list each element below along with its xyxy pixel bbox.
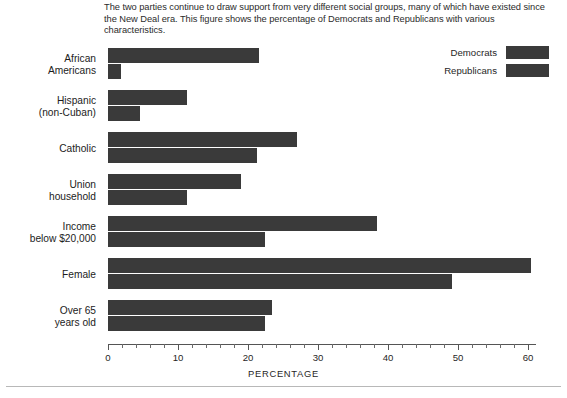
- bar-republicans-4: [108, 232, 265, 247]
- x-tick-major: [528, 344, 529, 350]
- x-tick-label: 20: [243, 352, 254, 363]
- bar-democrats-4: [108, 216, 377, 231]
- bar-group: Hispanic(non-Cuban): [0, 86, 567, 128]
- x-tick-major: [458, 344, 459, 350]
- x-tick-minor: [122, 344, 123, 348]
- x-tick-minor: [402, 344, 403, 348]
- category-label-line: below $20,000: [30, 233, 96, 245]
- x-tick-minor: [486, 344, 487, 348]
- category-label-line: household: [49, 191, 96, 203]
- category-label-line: Income: [63, 221, 96, 233]
- x-tick-minor: [444, 344, 445, 348]
- x-tick-label: 10: [173, 352, 184, 363]
- category-label-line: Union: [69, 179, 96, 191]
- figure-caption: The two parties continue to draw support…: [104, 2, 554, 37]
- x-tick-minor: [290, 344, 291, 348]
- bar-democrats-0: [108, 48, 259, 63]
- x-tick-minor: [304, 344, 305, 348]
- category-label: AfricanAmericans: [0, 44, 96, 86]
- x-tick-major: [388, 344, 389, 350]
- x-tick-minor: [472, 344, 473, 348]
- x-tick-label: 40: [383, 352, 394, 363]
- x-tick-label: 60: [523, 352, 534, 363]
- x-tick-minor: [192, 344, 193, 348]
- bar-republicans-0: [108, 64, 121, 79]
- category-label-line: Female: [62, 269, 96, 281]
- x-tick-minor: [514, 344, 515, 348]
- category-label-line: years old: [55, 317, 96, 329]
- x-tick-minor: [150, 344, 151, 348]
- x-tick-minor: [164, 344, 165, 348]
- x-tick-major: [248, 344, 249, 350]
- x-tick-major: [318, 344, 319, 350]
- x-tick-minor: [276, 344, 277, 348]
- category-label-line: African: [64, 53, 96, 65]
- category-label-line: Catholic: [59, 143, 96, 155]
- bar-republicans-1: [108, 106, 140, 121]
- x-tick-minor: [346, 344, 347, 348]
- x-tick-minor: [234, 344, 235, 348]
- category-label: Catholic: [0, 128, 96, 170]
- x-tick-label: 50: [453, 352, 464, 363]
- bottom-divider: [6, 386, 561, 387]
- bar-republicans-6: [108, 316, 265, 331]
- x-tick-major: [178, 344, 179, 350]
- x-tick-minor: [430, 344, 431, 348]
- bar-democrats-1: [108, 90, 187, 105]
- x-tick-minor: [262, 344, 263, 348]
- x-tick-label: 0: [105, 352, 110, 363]
- bar-chart-plot-area: AfricanAmericansHispanic(non-Cuban)Catho…: [0, 44, 567, 344]
- bar-group: Incomebelow $20,000: [0, 212, 567, 254]
- category-label: Female: [0, 254, 96, 296]
- x-tick-minor: [416, 344, 417, 348]
- x-tick-minor: [360, 344, 361, 348]
- category-label-line: Americans: [48, 65, 96, 77]
- bar-group: Unionhousehold: [0, 170, 567, 212]
- x-tick-minor: [220, 344, 221, 348]
- x-tick-major: [108, 344, 109, 350]
- x-axis: PERCENTAGE 0102030405060: [0, 344, 567, 398]
- bar-group: Female: [0, 254, 567, 296]
- bar-democrats-5: [108, 258, 531, 273]
- bar-democrats-3: [108, 174, 241, 189]
- category-label: Hispanic(non-Cuban): [0, 86, 96, 128]
- bar-democrats-6: [108, 300, 272, 315]
- x-tick-minor: [500, 344, 501, 348]
- x-tick-minor: [332, 344, 333, 348]
- category-label-line: Hispanic: [57, 95, 96, 107]
- x-tick-minor: [206, 344, 207, 348]
- x-tick-minor: [136, 344, 137, 348]
- category-label: Unionhousehold: [0, 170, 96, 212]
- bar-republicans-3: [108, 190, 187, 205]
- bar-group: Catholic: [0, 128, 567, 170]
- x-axis-title: PERCENTAGE: [0, 368, 567, 379]
- bar-democrats-2: [108, 132, 297, 147]
- bar-group: Over 65years old: [0, 296, 567, 338]
- category-label: Over 65years old: [0, 296, 96, 338]
- bar-group: AfricanAmericans: [0, 44, 567, 86]
- bar-republicans-5: [108, 274, 452, 289]
- x-tick-minor: [374, 344, 375, 348]
- category-label-line: (non-Cuban): [39, 107, 96, 119]
- category-label: Incomebelow $20,000: [0, 212, 96, 254]
- x-tick-label: 30: [313, 352, 324, 363]
- category-label-line: Over 65: [60, 305, 96, 317]
- bar-republicans-2: [108, 148, 257, 163]
